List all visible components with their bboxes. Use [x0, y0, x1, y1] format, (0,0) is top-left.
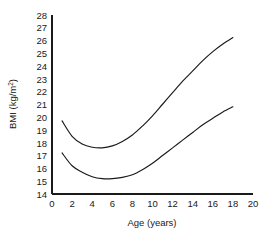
- x-axis-title: Age (years): [127, 217, 176, 228]
- x-tick-label: 20: [248, 198, 259, 209]
- x-tick-label: 4: [90, 198, 95, 209]
- y-tick-label: 16: [36, 163, 47, 174]
- lower-centile-curve: [62, 107, 233, 179]
- y-tick-label: 20: [36, 112, 47, 123]
- x-tick-label: 10: [147, 198, 158, 209]
- x-tick-label: 18: [228, 198, 239, 209]
- data-curves-group: [62, 38, 233, 179]
- svg-text:BMI (kg/m2): BMI (kg/m2): [7, 79, 19, 129]
- upper-centile-curve: [62, 38, 233, 148]
- x-tick-label: 2: [69, 198, 74, 209]
- y-tick-label: 26: [36, 35, 47, 46]
- y-axis-title-main: BMI (kg/m: [7, 86, 18, 129]
- chart-canvas: 28 27 26 25 24 23 22 21 20 19 18 17 16 1…: [0, 0, 273, 237]
- y-tick-label: 14: [36, 189, 47, 200]
- x-tick-label: 16: [208, 198, 219, 209]
- x-tick-label: 14: [187, 198, 198, 209]
- x-axis-tick-labels: 0 2 4 6 8 10 12 14 16 18 20: [49, 198, 258, 209]
- x-tick-label: 0: [49, 198, 54, 209]
- y-axis-title-tail: ): [7, 79, 18, 82]
- y-tick-label: 22: [36, 86, 47, 97]
- y-tick-label: 17: [36, 150, 47, 161]
- y-tick-label: 27: [36, 22, 47, 33]
- y-tick-label: 24: [36, 61, 47, 72]
- y-tick-label: 28: [36, 10, 47, 21]
- x-tick-label: 12: [167, 198, 178, 209]
- y-tick-label: 18: [36, 138, 47, 149]
- y-tick-label: 21: [36, 99, 47, 110]
- y-axis-tick-labels: 28 27 26 25 24 23 22 21 20 19 18 17 16 1…: [36, 10, 47, 200]
- y-tick-label: 19: [36, 125, 47, 136]
- y-tick-label: 15: [36, 176, 47, 187]
- y-axis-title: BMI (kg/m2): [7, 79, 19, 129]
- bmi-age-chart-figure: 28 27 26 25 24 23 22 21 20 19 18 17 16 1…: [0, 0, 273, 237]
- x-tick-label: 6: [110, 198, 115, 209]
- y-tick-label: 25: [36, 48, 47, 59]
- x-tick-label: 8: [130, 198, 135, 209]
- y-tick-label: 23: [36, 74, 47, 85]
